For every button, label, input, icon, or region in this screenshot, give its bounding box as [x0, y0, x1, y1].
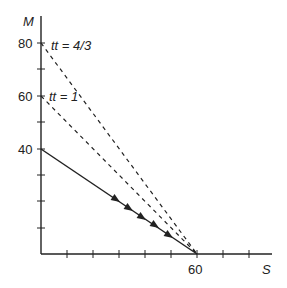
- x-tick-label-60: 60: [188, 262, 202, 277]
- annotation-tt-1: tt = 1: [49, 89, 78, 104]
- y-tick-label-60: 60: [18, 89, 32, 104]
- annotation-tt-4-3: tt = 4/3: [51, 38, 92, 53]
- y-tick-label-40: 40: [18, 142, 32, 157]
- line-tt-1: [41, 96, 197, 254]
- trajectory-arrows: [111, 194, 175, 241]
- arrow-icon: [164, 230, 175, 241]
- x-axis-label: S: [262, 262, 271, 277]
- arrow-icon: [124, 203, 135, 214]
- y-tick-label-80: 80: [18, 36, 32, 51]
- y-axis-label: M: [23, 14, 34, 29]
- phase-diagram: M 80 60 40 tt = 4/3 tt = 1 60 S: [0, 0, 287, 288]
- dashed-lines: [41, 43, 197, 254]
- line-tt-4-3: [41, 43, 197, 254]
- arrow-icon: [111, 194, 122, 205]
